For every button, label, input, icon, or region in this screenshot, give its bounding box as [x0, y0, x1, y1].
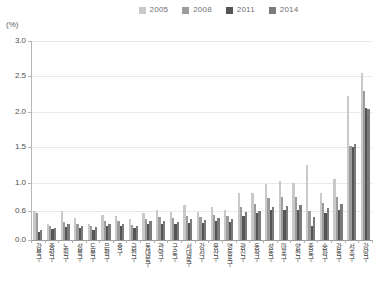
bar[interactable]: [95, 227, 97, 240]
bar[interactable]: [40, 230, 42, 240]
bar[interactable]: [122, 224, 124, 240]
legend-label: 2005: [150, 6, 169, 14]
bar[interactable]: [299, 205, 301, 240]
x-tick-mark: [372, 240, 373, 243]
bar-group[interactable]: [236, 41, 250, 240]
x-tick-label: 종로구: [304, 243, 318, 299]
square-swatch-icon: [269, 7, 276, 14]
bar-group[interactable]: [45, 41, 59, 240]
bar-group[interactable]: [290, 41, 304, 240]
bar-group[interactable]: [345, 41, 359, 240]
bar-groups: [31, 41, 372, 240]
bar[interactable]: [217, 218, 219, 240]
chart-legend: 2005 2008 2011 2014: [0, 6, 377, 14]
bar-chart: 2005 2008 2011 2014 (%) 0.00.61.01.52.02…: [0, 0, 377, 299]
x-tick-label: 마포구: [277, 243, 291, 299]
bar-group[interactable]: [358, 41, 372, 240]
legend-item-2008[interactable]: 2008: [182, 6, 212, 14]
bar[interactable]: [204, 220, 206, 240]
bar-group[interactable]: [86, 41, 100, 240]
square-swatch-icon: [226, 7, 233, 14]
bar[interactable]: [67, 224, 69, 240]
bar-group[interactable]: [277, 41, 291, 240]
y-tick-label: 0.6: [0, 207, 26, 215]
bar-group[interactable]: [140, 41, 154, 240]
bar[interactable]: [286, 206, 288, 240]
legend-label: 2008: [193, 6, 212, 14]
x-tick-label: 구로구: [167, 243, 181, 299]
x-tick-label: 은평구: [99, 243, 113, 299]
y-tick-label: 2.0: [0, 108, 26, 116]
bar[interactable]: [163, 221, 165, 240]
bar[interactable]: [340, 204, 342, 240]
x-tick-label: 서초구: [345, 243, 359, 299]
bar-group[interactable]: [126, 41, 140, 240]
bar-group[interactable]: [58, 41, 72, 240]
legend-label: 2014: [280, 6, 299, 14]
x-tick-label: 도봉구: [86, 243, 100, 299]
square-swatch-icon: [139, 7, 146, 14]
bar[interactable]: [190, 219, 192, 240]
bar[interactable]: [367, 109, 369, 240]
y-axis-unit-label: (%): [6, 20, 18, 29]
x-tick-label: 용산구: [208, 243, 222, 299]
x-tick-label: 강남구: [358, 243, 372, 299]
x-tick-label: 성북구: [72, 243, 86, 299]
x-tick-label: 중랑구: [45, 243, 59, 299]
bar[interactable]: [272, 207, 274, 240]
bar-group[interactable]: [167, 41, 181, 240]
bar[interactable]: [258, 211, 260, 240]
x-tick-label: 중구: [113, 243, 127, 299]
bar-group[interactable]: [331, 41, 345, 240]
bar[interactable]: [81, 226, 83, 240]
bar-group[interactable]: [195, 41, 209, 240]
y-tick-label: 1.0: [0, 179, 26, 187]
bar-group[interactable]: [72, 41, 86, 240]
bar-group[interactable]: [249, 41, 263, 240]
x-tick-label: 송파구: [317, 243, 331, 299]
x-axis-labels: 강북구중랑구노원구성북구도봉구은평구중구금천구동대문구관악구구로구서대문구강서구…: [31, 243, 372, 299]
bar-group[interactable]: [263, 41, 277, 240]
bar-group[interactable]: [317, 41, 331, 240]
bar-group[interactable]: [181, 41, 195, 240]
bar[interactable]: [354, 144, 356, 240]
legend-item-2014[interactable]: 2014: [269, 6, 299, 14]
x-tick-label: 금천구: [126, 243, 140, 299]
bar[interactable]: [136, 226, 138, 240]
bar[interactable]: [149, 221, 151, 240]
y-tick-label: 3.0: [0, 37, 26, 45]
bar[interactable]: [327, 208, 329, 240]
y-tick-label: 0.0: [0, 236, 26, 244]
x-tick-label: 광진구: [236, 243, 250, 299]
legend-item-2011[interactable]: 2011: [226, 6, 255, 14]
x-tick-label: 서대문구: [181, 243, 195, 299]
y-tick-label: 2.5: [0, 72, 26, 80]
bar[interactable]: [245, 212, 247, 240]
bar-group[interactable]: [113, 41, 127, 240]
x-axis-line: [31, 240, 372, 241]
bar-group[interactable]: [99, 41, 113, 240]
bar-group[interactable]: [208, 41, 222, 240]
bar[interactable]: [108, 224, 110, 240]
x-tick-label: 동대문구: [140, 243, 154, 299]
bar[interactable]: [313, 217, 315, 240]
x-tick-label: 강동구: [331, 243, 345, 299]
bar-group[interactable]: [222, 41, 236, 240]
y-tick-label: 1.5: [0, 143, 26, 151]
x-tick-label: 영등포구: [222, 243, 236, 299]
square-swatch-icon: [182, 7, 189, 14]
legend-item-2005[interactable]: 2005: [139, 6, 169, 14]
x-tick-label: 강서구: [195, 243, 209, 299]
bar-group[interactable]: [304, 41, 318, 240]
bar[interactable]: [54, 228, 56, 240]
bar[interactable]: [231, 219, 233, 240]
x-tick-label: 양천구: [290, 243, 304, 299]
x-tick-label: 노원구: [58, 243, 72, 299]
bar-group[interactable]: [154, 41, 168, 240]
legend-label: 2011: [237, 6, 255, 14]
x-tick-label: 관악구: [154, 243, 168, 299]
x-tick-label: 강북구: [31, 243, 45, 299]
bar-group[interactable]: [31, 41, 45, 240]
bar[interactable]: [177, 222, 179, 240]
x-tick-label: 성동구: [263, 243, 277, 299]
